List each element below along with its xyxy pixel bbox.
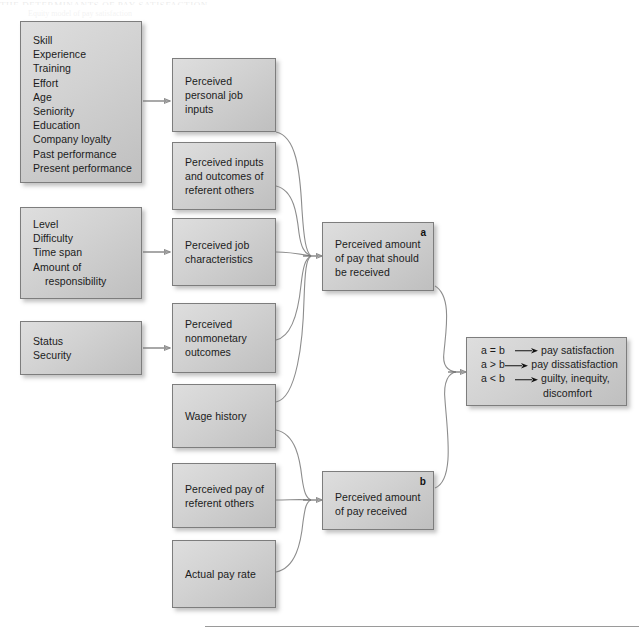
box-perceived-pay-of-referent-others: Perceived pay of referent others: [172, 463, 276, 528]
box-line: Perceived pay of: [185, 481, 267, 495]
box-pay-that-should-be-received: a Perceived amount of pay that should be…: [322, 222, 434, 291]
box-line: Age: [33, 90, 133, 104]
box-line: be received: [335, 265, 425, 279]
box-line: Perceived job: [185, 238, 267, 252]
outcome-continuation: discomfort: [481, 386, 618, 400]
box-line: Company loyalty: [33, 132, 133, 146]
box-line: Perceived amount: [335, 490, 425, 504]
box-personal-inputs: Skill Experience Training Effort Age Sen…: [20, 21, 142, 183]
box-line: outcomes: [185, 345, 267, 359]
right-arrow-icon: [515, 344, 541, 355]
right-arrow-icon: [515, 373, 541, 384]
right-arrow-icon: [505, 359, 531, 370]
box-line: Level: [33, 217, 133, 231]
box-line: Seniority: [33, 104, 133, 118]
box-line: Perceived inputs: [185, 155, 267, 169]
box-pay-received: b Perceived amount of pay received: [322, 471, 434, 530]
box-line: Amount of: [33, 260, 133, 274]
box-nonmonetary-attributes: Status Security: [20, 321, 142, 375]
box-line: referent others: [185, 496, 267, 510]
box-line: Training: [33, 61, 133, 75]
curve-wage-history-to-b: [276, 430, 311, 500]
curve-wage-history-to-a: [276, 256, 311, 402]
box-line: Wage history: [185, 409, 267, 423]
box-line: responsibility: [33, 274, 133, 288]
outcome-row: a < b guilty, inequity,: [481, 372, 618, 386]
box-line: Security: [33, 348, 133, 362]
box-job-attributes: Level Difficulty Time span Amount of res…: [20, 207, 142, 299]
box-line: Time span: [33, 246, 133, 260]
box-perceived-personal-job-inputs: Perceived personal job inputs: [172, 58, 276, 132]
box-line: Status: [33, 334, 133, 348]
box-line: and outcomes of: [185, 169, 267, 183]
box-line: Perceived: [185, 317, 267, 331]
box-line: Experience: [33, 47, 133, 61]
box-line: Present performance: [33, 161, 133, 175]
outcome-result: pay satisfaction: [541, 343, 614, 357]
box-line: characteristics: [185, 252, 267, 266]
box-perceived-job-characteristics: Perceived job characteristics: [172, 218, 276, 286]
box-line: Difficulty: [33, 232, 133, 246]
box-line: of pay that should: [335, 251, 425, 265]
box-line: inputs: [185, 102, 267, 116]
box-line: Perceived: [185, 74, 267, 88]
box-line: Past performance: [33, 147, 133, 161]
box-line: nonmonetary: [185, 331, 267, 345]
box-line: of pay received: [335, 504, 425, 518]
box-line: referent others: [185, 183, 267, 197]
curve-personal-job-inputs-to-a: [276, 132, 311, 256]
diagram-page: THE DETERMINANTS OF PAY SATISFACTION Equ…: [0, 0, 639, 633]
box-line: Perceived amount: [335, 237, 425, 251]
outcome-expression: a = b: [481, 343, 515, 357]
box-wage-history: Wage history: [172, 384, 276, 448]
curve-b-to-outcome: [435, 372, 456, 488]
box-line: Effort: [33, 76, 133, 90]
curve-actual-pay-rate-to-b: [276, 500, 311, 572]
box-line: Skill: [33, 33, 133, 47]
footer-rule: [205, 626, 639, 627]
outcome-expression: a > b: [481, 357, 505, 371]
box-line: Education: [33, 118, 133, 132]
curve-a-to-outcome: [435, 286, 456, 372]
box-line: Actual pay rate: [185, 567, 267, 581]
outcome-row: a > b pay dissatisfaction: [481, 357, 618, 371]
outcome-row: a = b pay satisfaction: [481, 343, 618, 357]
outcome-result: guilty, inequity,: [541, 372, 610, 386]
box-line: personal job: [185, 88, 267, 102]
box-perceived-nonmonetary-outcomes: Perceived nonmonetary outcomes: [172, 303, 276, 373]
box-perceived-referent-inputs-outcomes: Perceived inputs and outcomes of referen…: [172, 142, 276, 210]
box-outcome-panel: a = b pay satisfaction a > b pay dissati…: [466, 337, 627, 406]
box-tag-b: b: [420, 475, 426, 489]
box-actual-pay-rate: Actual pay rate: [172, 540, 276, 608]
